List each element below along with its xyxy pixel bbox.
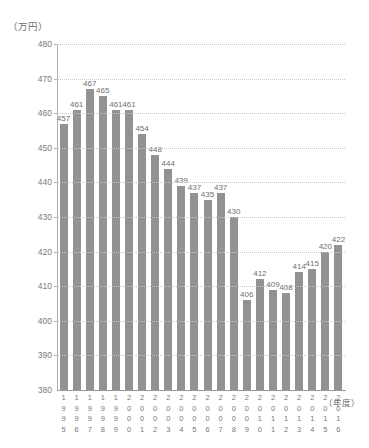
bar[interactable] (99, 96, 107, 390)
bar-value-label: 439 (175, 176, 188, 185)
bar-value-label: 461 (70, 100, 83, 109)
y-tick-label: 460 (12, 108, 52, 118)
x-tick-label: 2000 (122, 393, 135, 435)
gridline (57, 286, 345, 287)
bar[interactable] (334, 245, 342, 390)
bar[interactable] (164, 169, 172, 390)
x-tick-label: 2007 (214, 393, 227, 435)
x-axis-unit-label: （年度） (324, 396, 360, 408)
x-tick-label: 2013 (293, 393, 306, 435)
x-tick-label: 1996 (70, 393, 83, 435)
bar-value-label: 437 (214, 183, 227, 192)
bar[interactable] (125, 110, 133, 390)
bar[interactable] (86, 89, 94, 390)
y-tick-mark (54, 44, 57, 45)
bar-value-label: 454 (135, 124, 148, 133)
bar-value-label: 461 (109, 100, 122, 109)
y-tick-mark (54, 79, 57, 80)
x-tick-label: 2014 (306, 393, 319, 435)
y-axis-unit-title: （万円） (8, 19, 48, 33)
y-tick-mark (54, 252, 57, 253)
gridline (57, 148, 345, 149)
bar[interactable] (60, 124, 68, 390)
y-tick-mark (54, 217, 57, 218)
bar-value-label: 415 (306, 259, 319, 268)
bar-value-label: 435 (201, 190, 214, 199)
gridline (57, 182, 345, 183)
y-tick-label: 430 (12, 212, 52, 222)
bar[interactable] (295, 272, 303, 390)
x-tick-label: 2010 (253, 393, 266, 435)
y-tick-label: 470 (12, 74, 52, 84)
x-tick-label: 1998 (96, 393, 109, 435)
y-tick-label: 440 (12, 177, 52, 187)
x-tick-label: 2009 (240, 393, 253, 435)
x-tick-label: 2003 (162, 393, 175, 435)
bar-value-label: 467 (83, 79, 96, 88)
x-tick-label: 2012 (280, 393, 293, 435)
y-tick-label: 380 (12, 385, 52, 395)
bar[interactable] (204, 200, 212, 390)
gridline (57, 113, 345, 114)
bar[interactable] (282, 293, 290, 390)
gridline (57, 252, 345, 253)
bar[interactable] (217, 193, 225, 390)
gridline (57, 217, 345, 218)
plot-area: 4574614674654614614544484444394374354374… (57, 44, 345, 390)
bar-value-label: 430 (227, 207, 240, 216)
bar-value-label: 406 (240, 290, 253, 299)
bar-value-label: 444 (162, 159, 175, 168)
bar[interactable] (230, 217, 238, 390)
x-axis-labels: 1995199619971998199920002001200220032004… (57, 393, 345, 443)
bar-value-label: 408 (279, 283, 292, 292)
bar-value-label: 409 (266, 280, 279, 289)
y-tick-label: 400 (12, 316, 52, 326)
gridline (57, 44, 345, 45)
bar-value-label: 412 (253, 269, 266, 278)
x-tick-label: 2006 (201, 393, 214, 435)
x-tick-label: 2004 (175, 393, 188, 435)
bar[interactable] (256, 279, 264, 390)
y-tick-mark (54, 148, 57, 149)
bar[interactable] (112, 110, 120, 390)
y-tick-label: 480 (12, 39, 52, 49)
bar-value-label: 465 (96, 86, 109, 95)
x-tick-label: 1995 (57, 393, 70, 435)
bar[interactable] (73, 110, 81, 390)
bar-value-label: 422 (332, 235, 345, 244)
y-tick-mark (54, 182, 57, 183)
gridline (57, 79, 345, 80)
bar[interactable] (190, 193, 198, 390)
bar[interactable] (138, 134, 146, 390)
bar-value-label: 461 (122, 100, 135, 109)
bar[interactable] (243, 300, 251, 390)
gridline (57, 355, 345, 356)
y-tick-label: 390 (12, 350, 52, 360)
x-axis-line (57, 390, 346, 391)
y-tick-label: 450 (12, 143, 52, 153)
x-tick-label: 2001 (136, 393, 149, 435)
y-tick-mark (54, 321, 57, 322)
y-tick-mark (54, 355, 57, 356)
x-tick-label: 2011 (266, 393, 279, 435)
x-tick-label: 2008 (227, 393, 240, 435)
bar-value-label: 448 (148, 145, 161, 154)
y-tick-mark (54, 286, 57, 287)
x-tick-label: 2002 (149, 393, 162, 435)
bar-value-label: 414 (292, 262, 305, 271)
y-tick-label: 420 (12, 247, 52, 257)
gridline (57, 321, 345, 322)
x-tick-label: 2005 (188, 393, 201, 435)
x-tick-label: 1997 (83, 393, 96, 435)
bar-value-label: 457 (57, 114, 70, 123)
bar-chart: （万円） 45746146746546146145444844443943743… (0, 0, 369, 448)
y-tick-label: 410 (12, 281, 52, 291)
x-tick-label: 1999 (109, 393, 122, 435)
y-tick-mark (54, 113, 57, 114)
bar-value-label: 420 (319, 242, 332, 251)
bar-value-label: 437 (188, 183, 201, 192)
bar[interactable] (269, 290, 277, 390)
